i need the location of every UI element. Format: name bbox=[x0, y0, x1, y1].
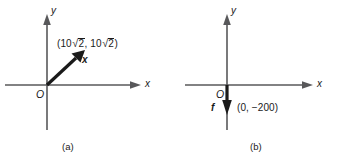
panel-b-coordinate-label: (0, −200) bbox=[237, 103, 278, 113]
panel-a-x-axis-label: x bbox=[145, 79, 150, 89]
panel-a: y x O x (10√2, 10√2) (a) bbox=[0, 0, 170, 164]
y-axis-arrowhead bbox=[43, 14, 51, 25]
x-axis-arrowhead bbox=[130, 81, 141, 89]
coord-close: ) bbox=[114, 38, 117, 49]
radicand-1: 2 bbox=[78, 38, 85, 49]
panel-b-graphic bbox=[170, 0, 341, 164]
panel-b-origin-label: O bbox=[216, 89, 224, 100]
vector-f-arrowhead bbox=[222, 100, 232, 115]
panel-a-y-axis-label: y bbox=[51, 6, 56, 16]
panel-a-vector-label: x bbox=[82, 55, 88, 65]
y-axis-arrowhead bbox=[223, 14, 231, 25]
panel-b-x-axis-label: x bbox=[317, 79, 322, 89]
radical-term-1: √2 bbox=[72, 38, 85, 49]
panel-a-origin-label: O bbox=[36, 89, 44, 100]
vector-x-shaft bbox=[47, 58, 76, 85]
x-axis-arrowhead bbox=[302, 81, 313, 89]
panel-b-vector-label: f bbox=[211, 103, 214, 113]
figure-root: y x O x (10√2, 10√2) (a) y bbox=[0, 0, 341, 164]
panel-b-y-axis-label: y bbox=[231, 6, 236, 16]
coord-separator: , 10 bbox=[85, 38, 102, 49]
panel-b-caption: (b) bbox=[250, 142, 262, 152]
panel-a-caption: (a) bbox=[62, 142, 74, 152]
panel-a-coordinate-label: (10√2, 10√2) bbox=[57, 38, 118, 49]
panel-b: y x O f (0, −200) (b) bbox=[170, 0, 341, 164]
radical-term-2: √2 bbox=[102, 38, 115, 49]
radicand-2: 2 bbox=[108, 38, 115, 49]
coord-open: (10 bbox=[57, 38, 72, 49]
